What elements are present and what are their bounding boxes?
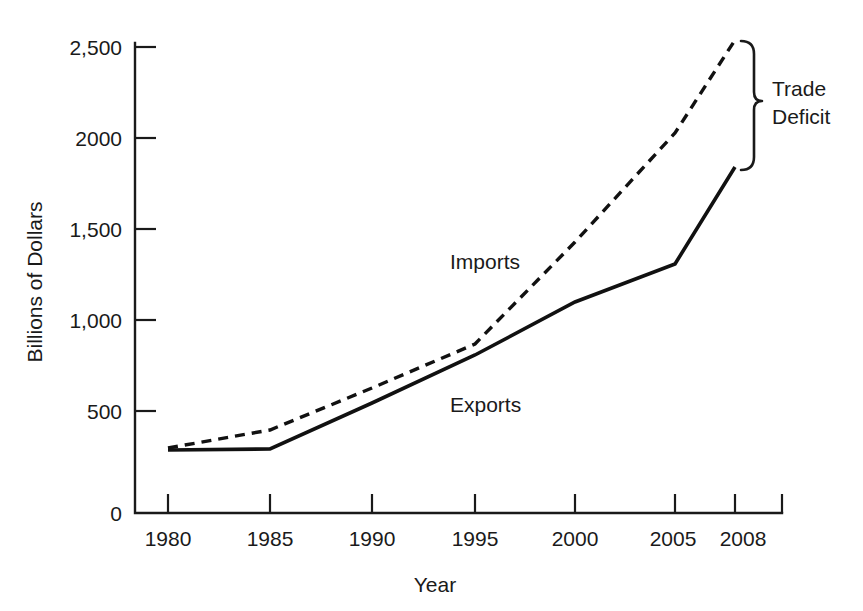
trade-deficit-label-line2: Deficit [772,105,831,128]
trade-deficit-label-line1: Trade [772,77,826,100]
x-tick-label-2005: 2005 [650,527,697,550]
trade-deficit-brace-icon [741,41,762,170]
x-tick-marks [168,494,782,513]
axis-lines [135,43,782,513]
x-tick-label-1980: 1980 [145,527,192,550]
y-tick-label-2500: 2,500 [69,36,122,59]
y-axis-title: Billions of Dollars [23,201,46,362]
y-tick-label-0: 0 [110,502,122,525]
x-tick-label-2000: 2000 [552,527,599,550]
y-tick-label-1000: 1,000 [69,309,122,332]
x-axis-title: Year [414,573,456,596]
series-label-exports: Exports [450,393,521,416]
x-tick-label-1985: 1985 [247,527,294,550]
chart-figure: 2,500 2000 1,500 1,000 500 0 1980 1985 1… [0,0,863,611]
series-line-imports [168,40,735,448]
line-chart: 2,500 2000 1,500 1,000 500 0 1980 1985 1… [0,0,863,611]
series-label-imports: Imports [450,250,520,273]
x-tick-label-1995: 1995 [452,527,499,550]
y-tick-label-2000: 2000 [75,127,122,150]
x-tick-label-2008: 2008 [720,527,767,550]
y-tick-marks [135,47,156,411]
x-tick-label-1990: 1990 [349,527,396,550]
y-tick-label-500: 500 [87,400,122,423]
y-tick-label-1500: 1,500 [69,218,122,241]
